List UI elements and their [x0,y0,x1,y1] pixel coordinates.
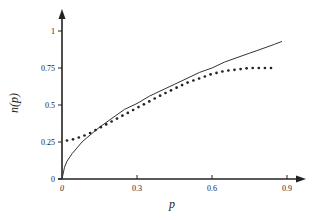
dotted-curve-point [72,138,75,141]
dotted-curve-point [209,73,212,76]
x-tick-label: 0.3 [132,184,142,193]
y-tick-label: 0.5 [45,101,55,110]
dotted-curve-point [89,132,92,135]
dotted-curve-point [239,68,242,71]
dotted-curve-point [137,106,140,109]
y-axis-label: n(p) [7,93,21,113]
x-axis-arrow-icon [296,176,306,183]
dotted-curve-point [192,79,195,82]
dotted-curve-point [170,89,173,92]
dotted-curve-point [83,134,86,137]
dotted-curve-point [66,139,69,142]
dotted-curve-point [175,86,178,89]
dotted-curve-point [153,97,156,100]
dotted-curve-point [186,81,189,84]
axes [58,9,306,183]
dotted-curve-point [99,126,102,129]
dotted-curve-point [105,123,108,126]
solid-curve [62,41,282,179]
chart: 00.250.50.751 00.30.60.9 p n(p) [0,0,318,220]
y-tick-label: 1 [51,27,55,36]
series-layer [62,41,282,179]
dotted-curve-point [159,94,162,97]
x-tick-label: 0.6 [207,184,217,193]
x-tick-label: 0 [60,184,64,193]
y-axis-arrow-icon [59,9,66,19]
dotted-curve-point [181,84,184,87]
dotted-curve-point [227,69,230,72]
dotted-curve-point [116,117,119,120]
dotted-curve-point [204,75,207,78]
dotted-curve-point [245,67,248,70]
x-tick-label: 0.9 [282,184,292,193]
dotted-curve-point [94,129,97,132]
dotted-curve-point [270,67,273,70]
dotted-curve-point [221,70,224,73]
dotted-curve-point [132,109,135,112]
x-ticks: 00.30.60.9 [60,175,292,193]
x-axis-label: p [168,197,175,211]
dotted-curve-point [257,67,260,70]
dotted-curve-point [148,100,151,103]
dotted-curve-point [264,67,267,70]
y-ticks: 00.250.50.751 [41,27,62,184]
dotted-curve-point [215,72,218,75]
y-tick-label: 0.25 [41,138,55,147]
y-tick-label: 0.75 [41,64,55,73]
dotted-curve-point [233,68,236,71]
dotted-curve-point [143,103,146,106]
dotted-curve-point [198,77,201,80]
dotted-curve-point [126,112,129,115]
dotted-curve-point [110,120,113,123]
y-tick-label: 0 [51,175,55,184]
dotted-curve-point [77,136,80,139]
dotted-curve-point [251,67,254,70]
dotted-curve-point [164,92,167,95]
dotted-curve-point [121,114,124,117]
